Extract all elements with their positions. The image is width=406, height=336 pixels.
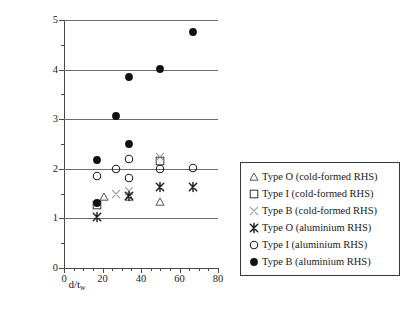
legend-item-0[interactable]: Type O (cold-formed RHS): [246, 168, 393, 185]
legend-marker-bold-asterisk-icon: [246, 221, 262, 235]
data-point-s3-p3: [187, 181, 199, 193]
y-axis-title-line1: Ratio of Bearing Capacity: [0, 0, 10, 28]
y-tick-4: [59, 70, 64, 71]
data-point-s2-p2: [154, 151, 166, 163]
x-tick-55: [170, 268, 171, 271]
chart-figure: Ratio of Bearing Capacity (CFRP Strength…: [0, 0, 406, 336]
data-point-s0-p2: [154, 196, 166, 208]
data-point-s5-p4: [123, 138, 135, 150]
data-point-s0-p0: [98, 191, 110, 203]
data-point-s2-p1: [123, 185, 135, 197]
y-tick-4.5: [61, 45, 64, 46]
legend-label-4: Type I (aluminium RHS): [262, 239, 367, 251]
data-point-s1-p0: [91, 199, 103, 211]
legend-item-4[interactable]: Type I (aluminium RHS): [246, 236, 393, 253]
legend-label-3: Type O (aluminium RHS): [262, 222, 371, 234]
x-tick-label-60: 60: [174, 274, 185, 285]
y-tick-0.5: [61, 243, 64, 244]
data-point-s0-p1: [123, 191, 135, 203]
legend-marker-open-square-icon: [246, 187, 262, 201]
x-axis-title: d/tw: [68, 278, 85, 290]
data-point-s4-p3: [123, 172, 135, 184]
legend-label-0: Type O (cold-formed RHS): [262, 171, 378, 183]
y-tick-1: [59, 218, 64, 219]
legend-label-1: Type I (cold-formed RHS): [262, 188, 374, 200]
data-point-s5-p6: [187, 26, 199, 38]
data-point-s5-p3: [123, 71, 135, 83]
x-axis-title-subscript: w: [80, 283, 85, 292]
gridline-y-4: [64, 70, 218, 71]
y-tick-label-3: 3: [53, 114, 58, 125]
y-tick-3: [59, 119, 64, 120]
gridline-y-1: [64, 218, 218, 219]
data-point-s1-p1: [154, 155, 166, 167]
legend-item-1[interactable]: Type I (cold-formed RHS): [246, 185, 393, 202]
y-axis-title: Ratio of Bearing Capacity (CFRP Strength…: [0, 0, 18, 28]
y-tick-2: [59, 169, 64, 170]
gridline-y-2: [64, 169, 218, 170]
y-tick-1.5: [61, 194, 64, 195]
data-point-s4-p0: [91, 170, 103, 182]
x-tick-10: [83, 268, 84, 271]
x-axis-title-main: d/t: [68, 278, 80, 290]
y-tick-2.5: [61, 144, 64, 145]
legend-label-5: Type B (aluminium RHS): [262, 256, 371, 268]
x-tick-5: [74, 268, 75, 271]
y-tick-label-1: 1: [53, 213, 58, 224]
x-tick-label-20: 20: [97, 274, 108, 285]
x-tick-75: [208, 268, 209, 271]
legend: Type O (cold-formed RHS)Type I (cold-for…: [240, 162, 400, 276]
plot-area: 012345 020406080: [64, 20, 218, 268]
data-point-s3-p1: [123, 190, 135, 202]
y-tick-label-5: 5: [53, 15, 58, 26]
y-axis-title-line2: (CFRP Strengthened/Bare RHS): [10, 0, 22, 28]
legend-item-5[interactable]: Type B (aluminium RHS): [246, 253, 393, 270]
legend-marker-light-cross-icon: [246, 204, 262, 218]
data-point-s2-p0: [110, 188, 122, 200]
x-tick-label-40: 40: [136, 274, 147, 285]
y-tick-label-2: 2: [53, 164, 58, 175]
legend-marker-open-circle-icon: [246, 238, 262, 252]
y-tick-3.5: [61, 94, 64, 95]
legend-label-2: Type B (cold-formed RHS): [262, 205, 377, 217]
legend-marker-open-triangle-icon: [246, 170, 262, 184]
x-tick-25: [112, 268, 113, 271]
x-tick-30: [122, 268, 123, 271]
legend-item-2[interactable]: Type B (cold-formed RHS): [246, 202, 393, 219]
x-tick-35: [131, 268, 132, 271]
y-tick-label-0: 0: [53, 263, 58, 274]
legend-item-3[interactable]: Type O (aluminium RHS): [246, 219, 393, 236]
gridline-y-3: [64, 119, 218, 120]
x-tick-50: [160, 268, 161, 271]
data-point-s4-p2: [123, 153, 135, 165]
y-tick-label-4: 4: [53, 64, 58, 75]
x-tick-label-0: 0: [61, 274, 66, 285]
legend-marker-filled-circle-icon: [246, 255, 262, 269]
y-tick-5: [59, 20, 64, 21]
x-tick-label-80: 80: [213, 274, 224, 285]
data-point-s5-p2: [110, 110, 122, 122]
data-point-s5-p0: [91, 154, 103, 166]
gridline-y-5: [64, 20, 218, 21]
data-point-s5-p1: [91, 197, 103, 209]
x-tick-15: [93, 268, 94, 271]
x-tick-70: [199, 268, 200, 271]
y-axis-line: [64, 20, 65, 268]
x-tick-65: [189, 268, 190, 271]
data-point-s3-p2: [154, 181, 166, 193]
x-tick-45: [151, 268, 152, 271]
